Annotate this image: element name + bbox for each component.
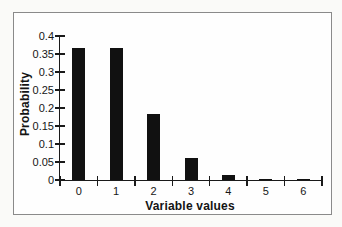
x-axis-title: Variable values [59,199,321,213]
x-tick-label: 2 [142,185,166,197]
y-tick-label: 0.05 [14,156,54,169]
x-tick [97,176,99,186]
y-tick [55,71,65,73]
y-tick-label: 0.35 [14,48,54,61]
y-tick [55,35,65,37]
y-tick-label: 0 [14,174,54,187]
x-tick-label: 3 [179,185,203,197]
plot-area: 00.050.10.150.20.250.30.350.40123456 [59,36,322,181]
y-tick-label: 0.2 [14,102,54,115]
x-tick [59,176,61,186]
x-tick [172,176,174,186]
bar-category-6 [297,179,310,180]
x-tick [284,176,286,186]
x-tick-label: 6 [291,185,315,197]
y-tick [55,125,65,127]
chart-border-box: Probability 00.050.10.150.20.250.30.350.… [13,12,332,215]
bar-category-0 [72,48,85,180]
y-tick-label: 0.25 [14,84,54,97]
x-tick-label: 1 [104,185,128,197]
bar-category-1 [110,48,123,180]
x-tick [134,176,136,186]
x-tick-label: 5 [254,185,278,197]
x-tick [246,176,248,186]
y-tick-label: 0.15 [14,120,54,133]
x-tick-label: 0 [67,185,91,197]
chart-figure: Probability 00.050.10.150.20.250.30.350.… [0,0,342,227]
y-tick [55,143,65,145]
y-tick [55,161,65,163]
y-tick-label: 0.4 [14,30,54,43]
bar-category-2 [147,114,160,180]
y-tick [55,53,65,55]
x-tick [321,176,323,186]
y-tick [55,107,65,109]
y-tick-label: 0.1 [14,138,54,151]
y-tick-label: 0.3 [14,66,54,79]
x-tick [209,176,211,186]
bar-category-4 [222,175,235,180]
bar-category-5 [259,179,272,180]
bar-category-3 [185,158,198,180]
y-tick [55,89,65,91]
x-tick-label: 4 [216,185,240,197]
